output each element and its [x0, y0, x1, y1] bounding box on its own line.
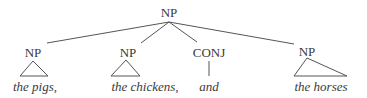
- root-node-label: NP: [161, 5, 178, 20]
- branch-np1: [47, 22, 169, 43]
- leaf-text: the horses: [294, 79, 347, 94]
- leaf-text: and: [199, 79, 219, 94]
- triangle-icon: [111, 60, 140, 76]
- node-conj-and: CONJ and: [193, 45, 226, 94]
- leaf-text: the chickens,: [111, 79, 178, 94]
- node-label: CONJ: [193, 45, 226, 60]
- leaf-text: the pigs,: [13, 79, 57, 94]
- node-label: NP: [299, 44, 316, 59]
- node-label: NP: [120, 45, 137, 60]
- node-np-the-horses: NP the horses: [294, 44, 348, 94]
- branch-np4: [169, 22, 294, 44]
- node-np-the-pigs: NP the pigs,: [13, 45, 57, 94]
- triangle-icon: [20, 61, 48, 76]
- branch-conj: [169, 22, 197, 42]
- syntax-tree: NP NP the pigs, NP the chickens, CONJ an…: [0, 0, 367, 98]
- node-np-the-chickens: NP the chickens,: [111, 45, 179, 94]
- triangle-icon: [294, 58, 347, 76]
- node-label: NP: [25, 45, 42, 60]
- branch-np2: [141, 22, 169, 43]
